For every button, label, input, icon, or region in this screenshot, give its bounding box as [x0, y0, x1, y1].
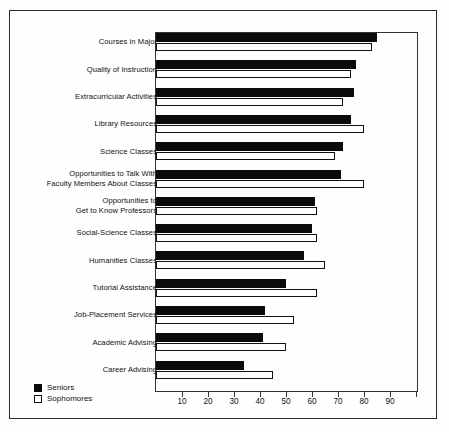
- category-label: Extracurricular Activities: [75, 92, 157, 101]
- bar-seniors: [156, 60, 356, 69]
- bar-sophomores: [156, 343, 286, 351]
- category-label: Library Resources: [95, 119, 157, 128]
- x-axis-tick-label: 30: [229, 397, 238, 406]
- x-axis-tick-label: 60: [307, 397, 316, 406]
- bar-sophomores: [156, 371, 273, 379]
- x-axis-tick-label: 50: [281, 397, 290, 406]
- category-label: Tutorial Assistance: [93, 283, 157, 292]
- bar-rows-container: Courses in MajorQuality of InstructionEx…: [0, 0, 449, 432]
- legend-swatch-seniors-icon: [34, 384, 42, 392]
- bar-seniors: [156, 115, 351, 124]
- x-axis-tick-label: 10: [177, 397, 186, 406]
- bar-sophomores: [156, 234, 317, 242]
- category-label: Courses in Major: [99, 37, 157, 46]
- category-label: Opportunities to Talk With Faculty Membe…: [47, 169, 157, 188]
- bar-seniors: [156, 306, 265, 315]
- bar-sophomores: [156, 152, 335, 160]
- bar-sophomores: [156, 125, 364, 133]
- bar-sophomores: [156, 316, 294, 324]
- x-axis-tick-label: 20: [203, 397, 212, 406]
- bar-sophomores: [156, 289, 317, 297]
- bar-seniors: [156, 361, 244, 370]
- legend-label: Sophomores: [47, 394, 92, 403]
- x-axis-tick-label: 40: [255, 397, 264, 406]
- x-axis: 102030405060708090: [155, 392, 418, 414]
- legend-label: Seniors: [47, 383, 74, 392]
- category-label: Science Classes: [100, 147, 157, 156]
- bar-sophomores: [156, 180, 364, 188]
- bar-sophomores: [156, 98, 343, 106]
- x-axis-tick-label: 70: [333, 397, 342, 406]
- category-label: Quality of Instruction: [87, 65, 157, 74]
- bar-seniors: [156, 279, 286, 288]
- legend-swatch-sophomores-icon: [34, 395, 42, 403]
- category-label: Humanities Classes: [89, 256, 157, 265]
- category-label: Job-Placement Services: [74, 310, 157, 319]
- x-axis-tick: [416, 392, 417, 397]
- bar-seniors: [156, 251, 304, 260]
- chart-figure: Courses in MajorQuality of InstructionEx…: [0, 0, 449, 432]
- x-axis-tick-label: 90: [385, 397, 394, 406]
- bar-seniors: [156, 88, 354, 97]
- category-label: Social-Science Classes: [77, 228, 157, 237]
- legend-item: Seniors: [34, 382, 92, 393]
- bar-sophomores: [156, 207, 317, 215]
- x-axis-tick-label: 80: [359, 397, 368, 406]
- category-label: Career Advising: [103, 365, 157, 374]
- bar-seniors: [156, 197, 315, 206]
- category-label: Academic Advising: [92, 338, 157, 347]
- bar-seniors: [156, 33, 377, 42]
- category-label: Opportunities to Get to Know Professors: [76, 196, 157, 215]
- bar-seniors: [156, 333, 263, 342]
- bar-seniors: [156, 170, 341, 179]
- legend-item: Sophomores: [34, 393, 92, 404]
- bar-seniors: [156, 224, 312, 233]
- bar-sophomores: [156, 70, 351, 78]
- bar-sophomores: [156, 261, 325, 269]
- bar-sophomores: [156, 43, 372, 51]
- bar-seniors: [156, 142, 343, 151]
- chart-legend: SeniorsSophomores: [34, 382, 92, 404]
